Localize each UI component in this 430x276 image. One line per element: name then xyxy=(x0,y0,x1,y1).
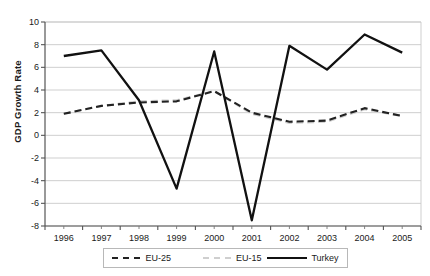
x-tick-label: 1998 xyxy=(129,233,149,243)
y-tick-label: -8 xyxy=(15,221,39,231)
y-tick-label: 2 xyxy=(15,108,39,118)
x-tick-label: 2003 xyxy=(317,233,337,243)
legend-dash-icon-eu15 xyxy=(203,257,231,259)
y-tick-label: 10 xyxy=(15,17,39,27)
y-tick-label: 6 xyxy=(15,62,39,72)
gdp-growth-line-chart: GDP Growth Rate -8-6-4-20246810 19961997… xyxy=(0,0,430,276)
x-tick-label: 2002 xyxy=(279,233,299,243)
x-tick-label: 1999 xyxy=(167,233,187,243)
legend-line-icon-turkey xyxy=(267,257,307,259)
legend-item-turkey: Turkey xyxy=(261,249,338,267)
x-tick-label: 2004 xyxy=(355,233,375,243)
y-tick-label: -2 xyxy=(15,153,39,163)
y-tick-label: 4 xyxy=(15,85,39,95)
legend-item-eu15: EU-15 xyxy=(203,249,262,267)
x-tick-label: 1997 xyxy=(91,233,111,243)
legend-label-eu25: EU-25 xyxy=(145,253,171,263)
chart-legend: EU-25 EU-15 Turkey xyxy=(103,248,348,268)
y-tick-label: 0 xyxy=(15,130,39,140)
legend-label-turkey: Turkey xyxy=(311,253,338,263)
y-tick-label: -4 xyxy=(15,176,39,186)
x-tick-label: 1996 xyxy=(54,233,74,243)
legend-dash-icon-eu25 xyxy=(112,257,140,259)
y-tick-label: 8 xyxy=(15,40,39,50)
x-tick-label: 2005 xyxy=(392,233,412,243)
x-tick-label: 2001 xyxy=(242,233,262,243)
legend-label-eu15: EU-15 xyxy=(236,253,262,263)
x-tick-label: 2000 xyxy=(204,233,224,243)
legend-item-eu25: EU-25 xyxy=(112,249,171,267)
y-tick-label: -6 xyxy=(15,198,39,208)
